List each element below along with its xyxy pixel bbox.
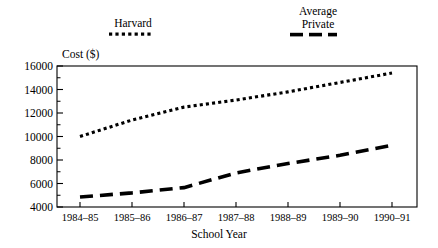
plot-area <box>0 0 438 248</box>
series-line-average-private <box>80 145 392 197</box>
cost-line-chart: Harvard Average Private Cost ($) <box>0 0 438 248</box>
tick-marks <box>57 66 392 207</box>
plot-frame <box>57 66 417 207</box>
series-line-harvard <box>80 73 392 136</box>
series-lines <box>80 73 392 197</box>
